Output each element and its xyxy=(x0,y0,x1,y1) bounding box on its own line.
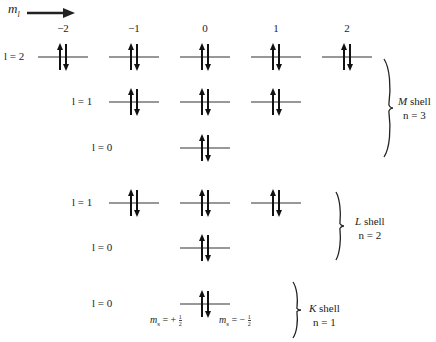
row-label-l-l1: l = 1 xyxy=(72,196,92,208)
orbital-paired-electrons-icon xyxy=(180,188,230,218)
orbital-paired-electrons-icon xyxy=(251,188,301,218)
row-label-m-l0: l = 0 xyxy=(92,141,112,153)
column-header-ml-0: 0 xyxy=(190,22,220,34)
orbital-paired-electrons-icon xyxy=(251,87,301,117)
column-header-ml-minus2: −2 xyxy=(48,22,78,34)
column-header-ml-1: 1 xyxy=(261,22,291,34)
orbital-paired-electrons-icon xyxy=(180,233,230,263)
row-label-k-l0: l = 0 xyxy=(92,297,112,309)
column-header-ml-2: 2 xyxy=(332,22,362,34)
row-label-m-l1: l = 1 xyxy=(72,95,92,107)
column-header-ml-minus1: −1 xyxy=(119,22,149,34)
orbital-paired-electrons-icon xyxy=(180,87,230,117)
k-shell-brace-icon xyxy=(291,281,303,339)
orbital-paired-electrons-icon xyxy=(322,42,372,72)
spin-down-label: ms = − 12 xyxy=(219,314,251,328)
orbital-paired-electrons-icon xyxy=(109,87,159,117)
spin-up-label: ms = + 12 xyxy=(150,314,182,328)
l-shell-brace-icon xyxy=(334,191,346,261)
orbital-paired-electrons-icon xyxy=(180,133,230,163)
ml-axis-label: ml xyxy=(8,1,20,19)
right-arrow-icon xyxy=(27,8,75,18)
orbital-paired-electrons-icon xyxy=(109,42,159,72)
orbital-paired-electrons-icon xyxy=(38,42,88,72)
orbital-paired-electrons-icon xyxy=(180,42,230,72)
row-label-l-l0: l = 0 xyxy=(92,241,112,253)
k-shell-label: K shell n = 1 xyxy=(309,301,340,329)
orbital-paired-electrons-icon xyxy=(109,188,159,218)
row-label-m-l2: l = 2 xyxy=(4,50,24,62)
m-shell-label: M shell n = 3 xyxy=(398,94,431,122)
m-shell-brace-icon xyxy=(382,58,396,158)
l-shell-label: L shell n = 2 xyxy=(355,214,385,242)
orbital-paired-electrons-icon xyxy=(251,42,301,72)
